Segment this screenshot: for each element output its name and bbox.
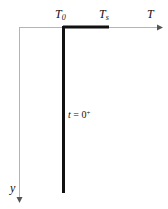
- curve-annotation-superscript: +: [86, 109, 90, 116]
- axis-label-depth: y: [10, 182, 15, 194]
- axis-label-ts-symbol: T: [99, 7, 106, 21]
- axis-label-t0-symbol: T: [55, 7, 62, 21]
- axis-label-ts-subscript: s: [106, 13, 109, 22]
- figure-temperature-profile: T0 Ts T y t = 0+: [0, 0, 168, 209]
- axis-label-t0: T0: [55, 8, 66, 22]
- curve-annotation-time: t = 0+: [68, 110, 90, 120]
- y-axis-arrowhead-icon: [17, 197, 23, 203]
- axis-label-ts: Ts: [99, 8, 109, 22]
- axis-label-temperature: T: [147, 8, 154, 20]
- figure-canvas: [0, 0, 168, 209]
- axis-label-t0-subscript: 0: [62, 13, 66, 22]
- t-axis-arrowhead-icon: [157, 25, 163, 31]
